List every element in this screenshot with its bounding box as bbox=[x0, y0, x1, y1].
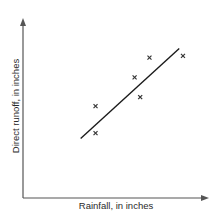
x-marker-icon bbox=[181, 54, 185, 58]
x-marker-icon bbox=[94, 104, 98, 108]
y-axis-label: Direct runoff, in inches bbox=[10, 59, 21, 154]
axes bbox=[20, 18, 209, 201]
x-axis-label: Rainfall, in inches bbox=[79, 200, 154, 211]
x-axis-arrow-icon bbox=[201, 195, 209, 201]
x-marker-icon bbox=[133, 75, 137, 79]
x-marker-icon bbox=[138, 95, 142, 99]
x-marker-icon bbox=[147, 56, 151, 60]
data-points bbox=[94, 54, 185, 135]
regression-line bbox=[81, 49, 180, 139]
y-axis-arrow-icon bbox=[20, 18, 26, 26]
fitted-line bbox=[81, 49, 180, 139]
scatter-chart: Rainfall, in inches Direct runoff, in in… bbox=[0, 0, 224, 222]
x-marker-icon bbox=[94, 131, 98, 135]
